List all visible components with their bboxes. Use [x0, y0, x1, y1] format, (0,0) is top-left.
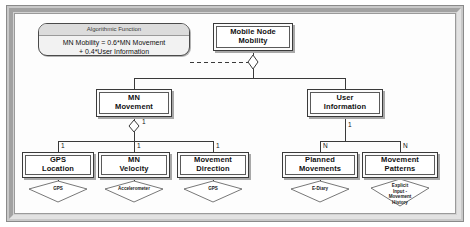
uml-aggregation-diagram: Algorithmic Function MN Mobility = 0.6*M… — [0, 0, 470, 227]
class-box-user-information[interactable]: User Information — [307, 89, 383, 117]
sensor-label: Explicit Input - Movement History — [371, 183, 429, 206]
multiplicity-movement-patterns: N — [403, 143, 408, 150]
multiplicity-mn-velocity: 1 — [137, 143, 141, 150]
multiplicity-mn-movement: 1 — [142, 119, 146, 126]
class-label: Movement Direction — [192, 156, 234, 174]
class-box-mn-movement[interactable]: MN Movement — [96, 89, 172, 117]
class-box-planned-movements[interactable]: Planned Movements — [282, 152, 358, 178]
class-box-movement-patterns[interactable]: Movement Patterns — [362, 152, 438, 178]
sensor-label-movement-direction-wrap: GPS — [184, 186, 242, 200]
note-body: MN Mobility = 0.6*MN Movement + 0.4*User… — [39, 36, 189, 56]
class-label: Planned Movements — [297, 156, 343, 174]
sensor-label: E-Diary — [291, 186, 349, 192]
class-label: GPS Location — [40, 156, 76, 174]
sensor-label: Accelerometer — [105, 186, 163, 192]
class-label: MN Velocity — [117, 156, 150, 174]
class-label: User Information — [322, 94, 368, 112]
class-box-mn-velocity[interactable]: MN Velocity — [98, 152, 170, 178]
class-box-movement-direction[interactable]: Movement Direction — [177, 152, 249, 178]
sensor-label-gps-location-wrap: GPS — [29, 186, 87, 200]
sensor-label: GPS — [184, 186, 242, 192]
class-box-mobile-node-mobility[interactable]: Mobile Node Mobility — [213, 23, 293, 51]
multiplicity-movement-direction: 1 — [216, 143, 220, 150]
sensor-label-movement-patterns-wrap: Explicit Input - Movement History — [371, 183, 429, 205]
class-box-gps-location[interactable]: GPS Location — [22, 152, 94, 178]
class-label: Mobile Node Mobility — [228, 28, 278, 46]
class-label: Movement Patterns — [379, 156, 421, 174]
class-label: MN Movement — [113, 94, 155, 112]
sensor-label-mn-velocity-wrap: Accelerometer — [105, 186, 163, 200]
sensor-label-planned-movements-wrap: E-Diary — [291, 186, 349, 200]
algorithmic-function-note: Algorithmic Function MN Mobility = 0.6*M… — [38, 23, 190, 56]
multiplicity-user-information: 1 — [348, 122, 352, 129]
sensor-label: GPS — [29, 186, 87, 192]
multiplicity-planned-movements: N — [323, 143, 328, 150]
note-title: Algorithmic Function — [39, 24, 189, 36]
multiplicity-gps-location: 1 — [61, 143, 65, 150]
